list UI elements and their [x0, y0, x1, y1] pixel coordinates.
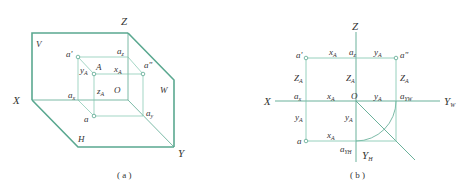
point-a	[92, 114, 96, 118]
a-double-prime-label: a"	[144, 60, 153, 70]
plane-h-label: H	[77, 134, 85, 144]
yA-center-label: yA	[344, 112, 353, 123]
a-label: a	[297, 136, 302, 146]
ayw-label: aYW	[400, 91, 413, 102]
point-a-prime	[304, 56, 308, 60]
axis-y-label: Y	[178, 147, 186, 159]
a-prime-label: a'	[296, 50, 304, 60]
ZA-left-label: ZA	[294, 73, 303, 84]
axis-yh-label: YH	[362, 149, 373, 162]
ayh-label: aYH	[340, 144, 353, 155]
xA-bottom-label: xA	[326, 130, 335, 141]
y-axis-line	[128, 100, 174, 147]
caption-b: ( b )	[350, 170, 365, 180]
ZA-right-label: ZA	[400, 73, 409, 84]
yA-mid-label: yA	[373, 91, 382, 102]
point-a	[304, 139, 308, 143]
point-a-double-prime	[141, 72, 145, 76]
plane-w-label: W	[160, 85, 169, 95]
axis-z-label: Z	[352, 20, 359, 32]
yA-left-label: yA	[294, 112, 303, 123]
a-prime-label: a'	[66, 49, 74, 59]
diagram-a-labels: Z X Y V H W O A a' a" a ax az ay yA xA z…	[12, 15, 186, 180]
az-label: az	[117, 46, 125, 57]
az-label: az	[349, 47, 357, 58]
ZA-center-label: ZA	[346, 73, 355, 84]
diagram-b-labels: Z X YW YH O a' a" a ax az aYW aYH xA yA …	[263, 20, 456, 180]
origin-label: O	[351, 91, 358, 101]
plane-v-label: V	[36, 39, 43, 49]
diagram-a	[32, 33, 174, 147]
projection-diagrams: Z X Y V H W O A a' a" a ax az ay yA xA z…	[0, 0, 466, 193]
axis-z-label: Z	[121, 15, 128, 27]
point-a-prime	[76, 55, 80, 59]
axis-yw-label: YW	[444, 95, 456, 108]
a-double-prime-label: a"	[400, 50, 409, 60]
ay-label: ay	[146, 108, 154, 119]
point-a-double-prime	[394, 56, 398, 60]
axis-x-label: X	[263, 95, 272, 107]
a-label: a	[84, 114, 89, 124]
origin-label: O	[114, 85, 121, 95]
zA-label: zA	[96, 86, 105, 97]
yA-top-label: yA	[373, 47, 382, 58]
ax-label: ax	[68, 90, 76, 101]
xA-mid-label: xA	[326, 91, 335, 102]
h-plane-edge	[32, 100, 174, 147]
caption-a: ( a )	[117, 170, 132, 180]
xA-top-label: xA	[328, 47, 337, 58]
xA-label: xA	[113, 64, 122, 75]
axis-x-label: X	[12, 94, 21, 106]
ax-label: ax	[294, 91, 302, 102]
point-A	[92, 72, 96, 76]
point-A-label: A	[95, 62, 102, 72]
